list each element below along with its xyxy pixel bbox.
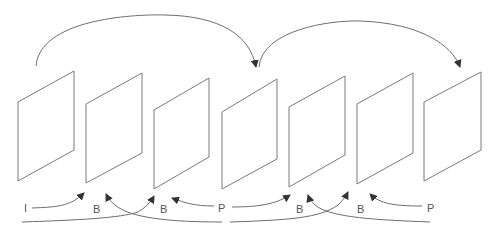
- frame-label: B: [160, 203, 167, 215]
- arc-p-to-p: [259, 21, 460, 67]
- frames: [18, 71, 481, 189]
- arrow-i-to-b1: [32, 193, 84, 208]
- arrow-p1-to-b3: [232, 195, 290, 207]
- arrow-p2-to-b3: [308, 195, 430, 222]
- frame-label: P: [427, 202, 434, 214]
- arrow-p2-to-b4: [370, 194, 422, 206]
- frame-p-7: [424, 72, 481, 181]
- frame-label: B: [93, 203, 100, 215]
- arrow-p1-to-b2: [172, 198, 214, 206]
- frame-b-6: [357, 73, 413, 184]
- frame-b-2: [86, 73, 142, 183]
- frame-label: B: [296, 203, 303, 215]
- frame-label: P: [218, 202, 225, 214]
- frame-p-4: [222, 79, 277, 189]
- frame-b-5: [289, 76, 345, 187]
- arc-i-to-p: [36, 15, 256, 67]
- arrow-i-to-b2: [22, 196, 154, 222]
- frame-labels: IBBPBBP: [24, 202, 434, 215]
- frame-b-3: [154, 78, 209, 189]
- frame-i-1: [18, 71, 74, 181]
- gop-diagram: IBBPBBP: [0, 0, 499, 236]
- frame-label: I: [24, 202, 27, 214]
- frame-label: B: [357, 203, 364, 215]
